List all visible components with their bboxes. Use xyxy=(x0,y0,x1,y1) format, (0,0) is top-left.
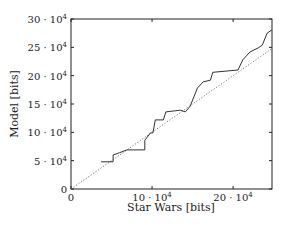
ticks-layer xyxy=(71,19,272,189)
y-axis-label: Model [bits] xyxy=(8,70,21,138)
y-tick-label: 30 · 104 xyxy=(28,13,68,25)
plot-frame xyxy=(71,19,272,189)
x-axis-label: Star Wars [bits] xyxy=(127,201,215,214)
y-tick-label: 5 · 104 xyxy=(34,155,68,167)
y-tick-label: 15 · 104 xyxy=(28,98,68,110)
y-tick-label: 0 xyxy=(61,184,67,195)
y-tick-label: 10 · 104 xyxy=(28,126,68,138)
x-tick-label: 20 · 104 xyxy=(213,191,253,203)
tick-labels: 010 · 10420 · 10405 · 10410 · 10415 · 10… xyxy=(28,13,254,203)
y-tick-label: 20 · 104 xyxy=(28,70,68,82)
chart: 010 · 10420 · 10405 · 10410 · 10415 · 10… xyxy=(0,0,286,227)
x-tick-label: 0 xyxy=(68,192,74,203)
model-curve-line xyxy=(101,30,272,162)
y-tick-label: 25 · 104 xyxy=(28,41,68,53)
reference-diagonal-line xyxy=(71,49,272,190)
